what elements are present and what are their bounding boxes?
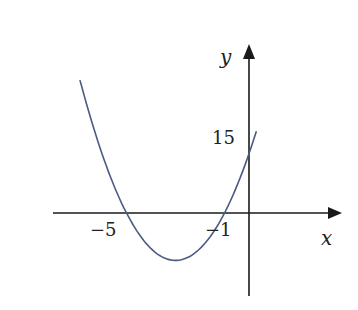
y-axis-arrow-icon [243, 44, 255, 59]
x-axis-arrow-icon [328, 207, 342, 219]
tick-label-x-neg5: −5 [90, 219, 117, 240]
tick-label-x-neg1: −1 [205, 219, 232, 240]
tick-label-y-15: 15 [212, 127, 235, 148]
parabola-graph: y x 15 −5 −1 [0, 0, 358, 310]
y-axis-label: y [219, 45, 232, 69]
x-axis-label: x [321, 226, 332, 250]
